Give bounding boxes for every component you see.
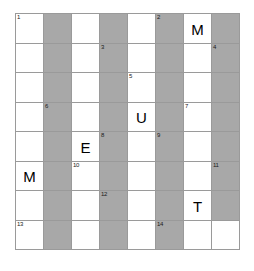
letter-cell[interactable]: E bbox=[72, 132, 100, 162]
letter-cell[interactable]: T bbox=[184, 191, 212, 221]
blocked-cell: 9 bbox=[156, 132, 184, 162]
blocked-cell bbox=[156, 191, 184, 221]
blocked-cell bbox=[212, 103, 240, 133]
blocked-cell bbox=[100, 14, 128, 44]
blocked-cell: 11 bbox=[212, 162, 240, 192]
letter-cell[interactable]: 13 bbox=[16, 221, 44, 251]
blocked-cell bbox=[100, 73, 128, 103]
blocked-cell bbox=[44, 14, 72, 44]
blocked-cell bbox=[156, 44, 184, 74]
blocked-cell bbox=[44, 221, 72, 251]
letter-cell[interactable] bbox=[184, 162, 212, 192]
letter-cell[interactable]: 7 bbox=[184, 103, 212, 133]
letter-cell[interactable]: U bbox=[128, 103, 156, 133]
letter-cell[interactable] bbox=[16, 132, 44, 162]
blocked-cell bbox=[44, 191, 72, 221]
letter-cell[interactable] bbox=[16, 103, 44, 133]
blocked-cell: 3 bbox=[100, 44, 128, 74]
cell-number: 6 bbox=[45, 103, 48, 110]
blocked-cell bbox=[44, 162, 72, 192]
cell-number: 2 bbox=[157, 14, 160, 21]
letter-cell[interactable] bbox=[184, 132, 212, 162]
crossword-page: 12M3456U7E89M101112T1314 bbox=[0, 0, 254, 271]
letter-cell[interactable] bbox=[184, 44, 212, 74]
letter-cell[interactable] bbox=[128, 191, 156, 221]
blocked-cell bbox=[44, 73, 72, 103]
blocked-cell bbox=[100, 103, 128, 133]
letter-cell[interactable] bbox=[72, 73, 100, 103]
cell-number: 7 bbox=[185, 103, 188, 110]
letter-cell[interactable] bbox=[128, 221, 156, 251]
letter-cell[interactable] bbox=[16, 191, 44, 221]
blocked-cell bbox=[156, 162, 184, 192]
letter-cell[interactable] bbox=[16, 73, 44, 103]
letter-cell[interactable]: 1 bbox=[16, 14, 44, 44]
blocked-cell bbox=[156, 103, 184, 133]
cell-letter: M bbox=[16, 162, 43, 191]
letter-cell[interactable] bbox=[128, 14, 156, 44]
blocked-cell: 12 bbox=[100, 191, 128, 221]
cell-letter: U bbox=[128, 103, 155, 132]
letter-cell[interactable] bbox=[72, 44, 100, 74]
blocked-cell bbox=[212, 14, 240, 44]
letter-cell[interactable] bbox=[72, 14, 100, 44]
cell-number: 5 bbox=[129, 73, 132, 80]
letter-cell[interactable] bbox=[212, 221, 240, 251]
letter-cell[interactable] bbox=[72, 103, 100, 133]
blocked-cell bbox=[44, 132, 72, 162]
blocked-cell bbox=[212, 73, 240, 103]
cell-number: 9 bbox=[157, 132, 160, 139]
blocked-cell bbox=[212, 191, 240, 221]
cell-number: 14 bbox=[157, 221, 163, 228]
blocked-cell bbox=[100, 221, 128, 251]
letter-cell[interactable] bbox=[72, 191, 100, 221]
blocked-cell bbox=[44, 44, 72, 74]
cell-number: 1 bbox=[17, 14, 20, 21]
blocked-cell bbox=[100, 162, 128, 192]
cell-number: 12 bbox=[101, 191, 107, 198]
blocked-cell: 2 bbox=[156, 14, 184, 44]
letter-cell[interactable]: M bbox=[16, 162, 44, 192]
cell-number: 3 bbox=[101, 44, 104, 51]
crossword-grid[interactable]: 12M3456U7E89M101112T1314 bbox=[15, 13, 240, 250]
cell-number: 4 bbox=[213, 44, 216, 51]
blocked-cell: 4 bbox=[212, 44, 240, 74]
cell-letter: M bbox=[184, 14, 211, 43]
blocked-cell: 6 bbox=[44, 103, 72, 133]
cell-number: 13 bbox=[17, 221, 23, 228]
letter-cell[interactable] bbox=[128, 132, 156, 162]
blocked-cell: 8 bbox=[100, 132, 128, 162]
blocked-cell bbox=[212, 132, 240, 162]
letter-cell[interactable]: 5 bbox=[128, 73, 156, 103]
letter-cell[interactable] bbox=[128, 162, 156, 192]
cell-letter: T bbox=[184, 191, 211, 220]
cell-number: 8 bbox=[101, 132, 104, 139]
letter-cell[interactable]: M bbox=[184, 14, 212, 44]
letter-cell[interactable] bbox=[16, 44, 44, 74]
blocked-cell bbox=[156, 73, 184, 103]
letter-cell[interactable] bbox=[184, 221, 212, 251]
letter-cell[interactable]: 10 bbox=[72, 162, 100, 192]
letter-cell[interactable] bbox=[184, 73, 212, 103]
letter-cell[interactable] bbox=[128, 44, 156, 74]
cell-letter: E bbox=[72, 132, 99, 161]
letter-cell[interactable] bbox=[72, 221, 100, 251]
cell-number: 11 bbox=[213, 162, 219, 169]
blocked-cell: 14 bbox=[156, 221, 184, 251]
cell-number: 10 bbox=[73, 162, 79, 169]
